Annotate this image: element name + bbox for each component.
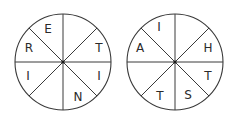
- letter-wheels-diagram: E T I N I R I H T S T A: [0, 0, 234, 116]
- wheel-left-segment-letter: R: [25, 41, 33, 55]
- wheel-left-segment-letter: I: [26, 69, 30, 83]
- wheel-right-segment-letter: A: [136, 41, 145, 55]
- wheel-right-center-dot: [173, 60, 176, 63]
- wheel-right-segment-letter: T: [155, 89, 164, 103]
- wheel-right: I H T S T A: [127, 14, 223, 110]
- wheel-left-segment-letter: N: [74, 90, 83, 104]
- wheel-right-segment-letter: T: [203, 69, 212, 83]
- wheel-right-segment-letter: S: [184, 88, 192, 102]
- wheel-left: E T I N I R: [15, 14, 111, 110]
- wheel-left-segment-letter: I: [97, 69, 101, 83]
- wheel-right-segment-letter: H: [203, 41, 212, 55]
- wheel-left-segment-letter: E: [44, 22, 52, 36]
- wheel-left-segment-letter: T: [94, 41, 103, 55]
- wheel-left-center-dot: [61, 60, 64, 63]
- wheel-right-segment-letter: I: [157, 20, 161, 34]
